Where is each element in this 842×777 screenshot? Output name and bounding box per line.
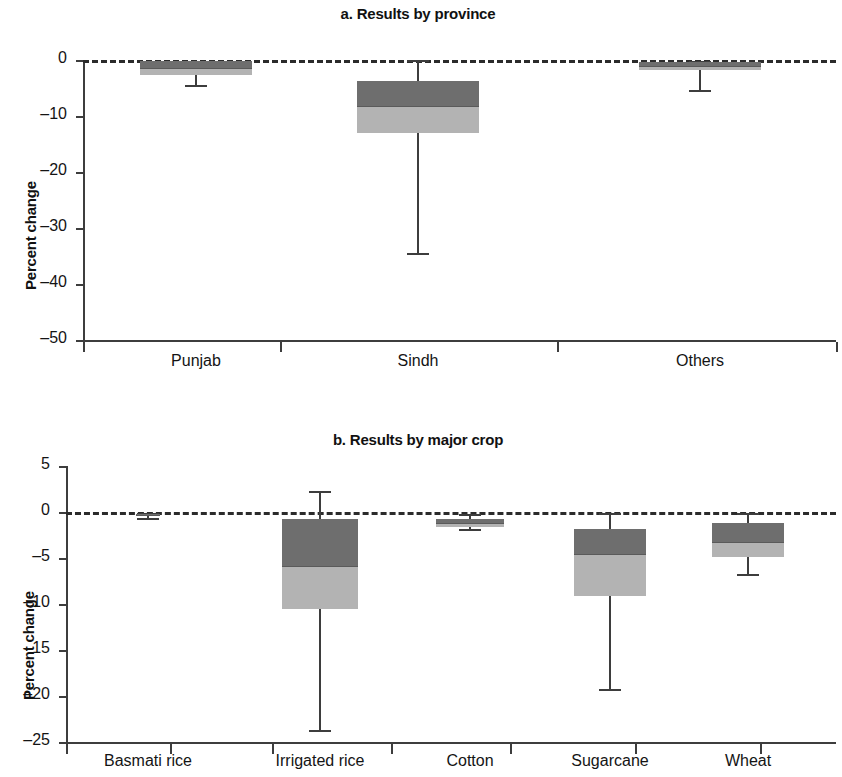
panel-a-plot-area: 0–10–20–30–40–50PunjabSindhOthers [0, 0, 836, 400]
x-tick-mark [836, 342, 838, 352]
whisker-lower-cap [689, 90, 711, 92]
whisker-lower-line [699, 70, 701, 90]
whisker-lower-line [747, 557, 749, 574]
panel-b-plot-area: 50–5–10–15–20–25Basmati riceIrrigated ri… [0, 400, 836, 777]
boxplot-others [0, 0, 836, 400]
box-upper-quartile [712, 523, 784, 542]
whisker-lower-cap [737, 574, 759, 576]
boxplot-wheat [0, 400, 836, 777]
median-line [639, 66, 761, 67]
panel-results-by-province: a. Results by province Percent change 0–… [0, 0, 836, 400]
whisker-upper-cap [737, 513, 759, 515]
median-line [712, 542, 784, 543]
box-lower-quartile [712, 542, 784, 557]
panel-results-by-major-crop: b. Results by major crop Percent change … [0, 400, 836, 777]
